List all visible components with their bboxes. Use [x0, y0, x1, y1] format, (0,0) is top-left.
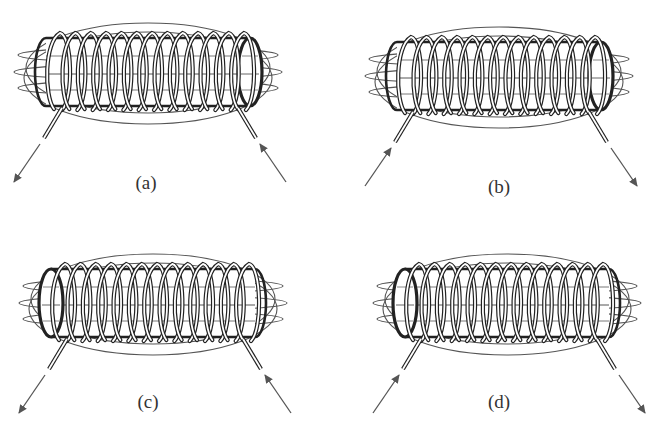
current-in-arrow-right	[260, 144, 286, 182]
panel-d: (d)	[327, 211, 654, 422]
current-in-arrow-left	[365, 148, 391, 186]
caption-c: (c)	[118, 391, 178, 413]
panel-b: (b)	[327, 0, 654, 211]
current-out-arrow-right	[619, 375, 645, 413]
current-out-arrow-right	[611, 148, 637, 186]
panel-c: (c)	[0, 211, 327, 422]
current-in-arrow-right	[265, 375, 291, 413]
caption-d: (d)	[469, 391, 529, 413]
current-out-arrow-left	[19, 375, 45, 413]
panel-a: (a)	[0, 0, 327, 211]
caption-b: (b)	[469, 176, 529, 198]
current-in-arrow-left	[373, 375, 399, 413]
caption-a: (a)	[116, 172, 176, 194]
current-out-arrow-left	[14, 144, 40, 182]
